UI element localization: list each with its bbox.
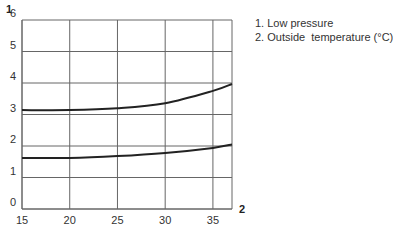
y-tick-label: 1 <box>2 165 16 177</box>
y-tick-label: 3 <box>2 102 16 114</box>
x-tick-label: 20 <box>58 214 82 226</box>
y-tick-label: 6 <box>2 7 16 19</box>
y-tick-label: 4 <box>2 70 16 82</box>
y-tick-label: 2 <box>2 133 16 145</box>
x-tick-label: 25 <box>105 214 129 226</box>
legend: 1. Low pressure 2. Outside temperature (… <box>255 16 393 44</box>
x-tick-label: 35 <box>201 214 225 226</box>
legend-item-low-pressure: 1. Low pressure <box>255 16 393 30</box>
series-line-1 <box>22 84 232 110</box>
y-tick-label: 5 <box>2 39 16 51</box>
y-tick-label: 0 <box>2 196 16 208</box>
x-tick-label: 30 <box>153 214 177 226</box>
x-tick-label: 15 <box>10 214 34 226</box>
x-axis-label: 2 <box>239 203 245 215</box>
legend-item-outside-temperature: 2. Outside temperature (°C) <box>255 30 393 44</box>
